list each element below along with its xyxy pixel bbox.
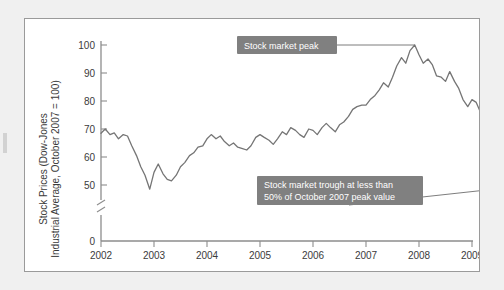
y-tick-label-60: 60 [84, 152, 96, 163]
x-tick-label-2003: 2003 [143, 250, 166, 261]
y-tick-label-50: 50 [84, 180, 96, 191]
x-tick-label-2007: 2007 [355, 250, 378, 261]
peak-callout: Stock market peak [237, 36, 337, 54]
y-tick-label-80: 80 [84, 96, 96, 107]
y-tick-label-70: 70 [84, 124, 96, 135]
y-tick-label-90: 90 [84, 68, 96, 79]
x-tick-label-2006: 2006 [302, 250, 325, 261]
peak-callout-text: Stock market peak [244, 41, 319, 51]
x-tick-label-2002: 2002 [90, 250, 113, 261]
trough-callout-text-line1: Stock market trough at less than [264, 180, 393, 190]
y-axis-title-line1: Stock Prices (Dow-Jones [38, 113, 49, 225]
y-tick-label-100: 100 [78, 40, 95, 51]
trough-callout: Stock market trough at less than 50% of … [257, 176, 423, 205]
x-tick-label-2009: 2009 [461, 250, 479, 261]
trough-callout-text-line2: 50% of October 2007 peak value [264, 192, 395, 202]
page-background: Stock Prices (Dow-Jones Industrial Avera… [0, 0, 504, 290]
y-axis-break-slash-1 [97, 200, 105, 205]
data-series-line [101, 45, 479, 189]
page-margin-mark [3, 133, 7, 153]
x-tick-label-2008: 2008 [408, 250, 431, 261]
figure-frame: Stock Prices (Dow-Jones Industrial Avera… [24, 18, 480, 272]
y-axis-break-slash-2 [97, 207, 105, 212]
x-tick-label-2004: 2004 [196, 250, 219, 261]
y-axis-title-line2: Industrial Average, October 2007 = 100) [50, 80, 61, 257]
x-tick-label-2005: 2005 [249, 250, 272, 261]
stock-price-line-chart: Stock Prices (Dow-Jones Industrial Avera… [25, 19, 479, 271]
y-tick-label-0: 0 [89, 236, 95, 247]
